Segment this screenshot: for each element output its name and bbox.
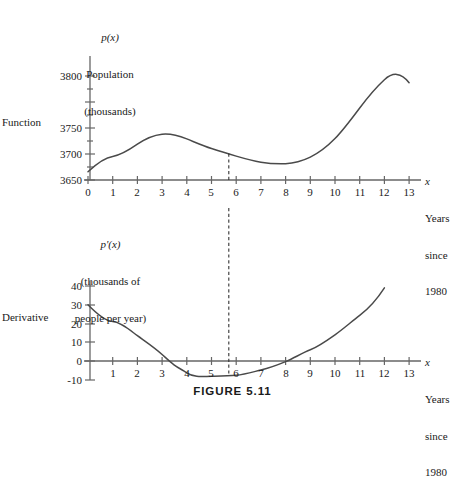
top-x-axis-symbol: x	[425, 175, 465, 187]
bottom-x-tick-label-9: 9	[300, 367, 320, 379]
top-x-axis-line1: Years	[425, 212, 465, 224]
top-y-axis-units: (thousands)	[60, 105, 160, 117]
bottom-y-tick-label-10: 10	[52, 336, 82, 348]
top-x-tick-label-6: 6	[226, 186, 246, 198]
top-x-tick-label-10: 10	[325, 186, 345, 198]
bottom-x-tick-label-11: 11	[350, 367, 370, 379]
top-x-tick-label-13: 13	[399, 186, 419, 198]
top-x-tick-label-7: 7	[251, 186, 271, 198]
top-y-tick-label-3700: 3700	[52, 148, 82, 160]
bottom-y-tick-label-30: 30	[52, 299, 82, 311]
top-x-tick-label-3: 3	[152, 186, 172, 198]
top-x-tick-label-12: 12	[374, 186, 394, 198]
top-x-tick-label-4: 4	[177, 186, 197, 198]
bottom-y-tick-label-20: 20	[52, 318, 82, 330]
top-x-tick-label-0: 0	[78, 186, 98, 198]
top-x-tick-label-8: 8	[276, 186, 296, 198]
side-label-function: Function	[2, 116, 41, 128]
bottom-x-tick-label-2: 2	[127, 367, 147, 379]
bottom-y-tick-label-0: 0	[52, 355, 82, 367]
top-x-tick-label-11: 11	[350, 186, 370, 198]
top-x-tick-label-1: 1	[103, 186, 123, 198]
bottom-x-axis-line3: 1980	[425, 466, 465, 478]
bottom-x-tick-label-12: 12	[374, 367, 394, 379]
bottom-x-axis-title: x Years since 1980	[425, 331, 465, 480]
bottom-x-tick-label-4: 4	[177, 367, 197, 379]
bottom-x-axis-symbol: x	[425, 356, 465, 368]
bottom-x-tick-label-1: 1	[103, 367, 123, 379]
bottom-x-tick-label-7: 7	[251, 367, 271, 379]
bottom-x-tick-label-3: 3	[152, 367, 172, 379]
top-x-axis-line2: since	[425, 249, 465, 261]
top-x-tick-label-2: 2	[127, 186, 147, 198]
bottom-x-tick-label-13: 13	[399, 367, 419, 379]
top-x-axis-title: x Years since 1980	[425, 150, 465, 322]
top-y-tick-label-3800: 3800	[52, 70, 82, 82]
bottom-x-tick-label-5: 5	[201, 367, 221, 379]
side-label-derivative: Derivative	[2, 311, 48, 323]
bottom-y-tick-label-40: 40	[52, 280, 82, 292]
top-x-axis-line3: 1980	[425, 285, 465, 297]
top-x-tick-label-9: 9	[300, 186, 320, 198]
top-y-tick-label-3750: 3750	[52, 122, 82, 134]
bottom-x-tick-label-10: 10	[325, 367, 345, 379]
bottom-x-tick-label-6: 6	[226, 367, 246, 379]
top-y-axis-symbol: p(x)	[60, 31, 160, 43]
bottom-x-axis-line2: since	[425, 430, 465, 442]
top-x-tick-label-5: 5	[201, 186, 221, 198]
top-y-tick-label-3650: 3650	[52, 174, 82, 186]
bottom-y-axis-symbol: p'(x)	[48, 238, 173, 250]
figure-caption: FIGURE 5.11	[0, 385, 465, 398]
bottom-x-tick-label-8: 8	[276, 367, 296, 379]
